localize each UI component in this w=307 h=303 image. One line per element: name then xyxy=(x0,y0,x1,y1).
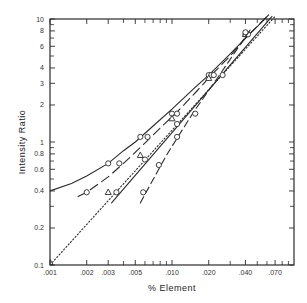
data-point-circle xyxy=(114,190,119,195)
y-tick-label: 3 xyxy=(40,80,44,87)
y-tick-label: 0.2 xyxy=(34,224,44,231)
data-point-circle xyxy=(138,134,143,139)
data-point-circle xyxy=(174,111,179,116)
data-point-circle xyxy=(142,157,147,162)
y-tick-label: 0.8 xyxy=(34,150,44,157)
data-point-circle xyxy=(174,121,179,126)
x-tick-label: .040 xyxy=(239,269,253,276)
data-point-circle xyxy=(193,111,198,116)
x-tick-label: .001 xyxy=(43,269,57,276)
x-tick-label: .003 xyxy=(101,269,115,276)
y-tick-label: 6 xyxy=(40,43,44,50)
x-tick-label: .002 xyxy=(80,269,94,276)
y-tick-label: 0.1 xyxy=(34,262,44,269)
data-point-circle xyxy=(141,190,146,195)
y-tick-label: 4 xyxy=(40,64,44,71)
data-point-circle xyxy=(156,162,161,167)
x-tick-label: .010 xyxy=(165,269,179,276)
data-point-circle xyxy=(220,72,225,77)
data-point-circle xyxy=(243,30,248,35)
x-tick-label: .005 xyxy=(128,269,142,276)
y-tick-label: 0.6 xyxy=(34,166,44,173)
y-tick-label: 0.4 xyxy=(34,187,44,194)
y-tick-label: 1 xyxy=(40,139,44,146)
data-point-circle xyxy=(174,134,179,139)
data-point-circle xyxy=(106,161,111,166)
x-tick-label: .070 xyxy=(268,269,282,276)
y-tick-label: 8 xyxy=(40,27,44,34)
y-axis-title: Intensity Ratio xyxy=(17,110,27,175)
x-axis-title: % Element xyxy=(148,283,196,293)
data-point-circle xyxy=(117,161,122,166)
y-tick-label: 2 xyxy=(40,101,44,108)
chart: .001.002.003.005.010.020.040.0700.10.20.… xyxy=(0,0,307,303)
data-point-circle xyxy=(84,190,89,195)
x-tick-label: .020 xyxy=(202,269,216,276)
data-point-circle xyxy=(211,72,216,77)
data-point-circle xyxy=(145,134,150,139)
y-tick-label: 10 xyxy=(36,16,44,23)
